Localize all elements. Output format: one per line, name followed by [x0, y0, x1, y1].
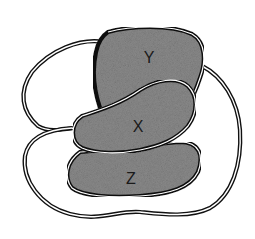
region-x-label: X	[133, 118, 144, 135]
region-y-label: Y	[144, 49, 155, 66]
region-z-label: Z	[126, 170, 136, 187]
venn-style-diagram: Y Z X	[0, 0, 255, 239]
